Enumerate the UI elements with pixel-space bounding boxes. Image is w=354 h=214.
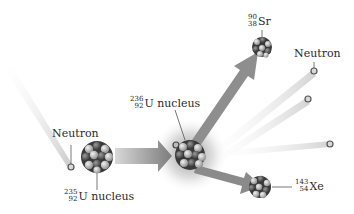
xe143-atomic: 54 bbox=[295, 186, 308, 193]
u235-suffix: nucleus bbox=[91, 190, 134, 203]
outgoing-neutron-label: Neutron bbox=[294, 48, 341, 59]
u235-nucleus bbox=[81, 141, 113, 174]
xe143-nucleus bbox=[249, 176, 271, 198]
incoming-neutron bbox=[68, 164, 74, 170]
fission-diagram: Neutron 23592U nucleus 23692U nucleus 90… bbox=[0, 0, 354, 214]
u235-label: 23592U nucleus bbox=[64, 189, 134, 203]
u235-atomic: 92 bbox=[64, 196, 77, 203]
xe143-label: 14354Xe bbox=[295, 179, 324, 193]
incoming-beam bbox=[0, 56, 72, 168]
arrow-to-sr bbox=[192, 52, 258, 146]
sr90-atomic: 38 bbox=[248, 21, 257, 28]
neutron-3 bbox=[327, 141, 333, 147]
neutron-1 bbox=[311, 68, 317, 74]
u236-suffix: nucleus bbox=[157, 97, 200, 110]
u235-symbol: U bbox=[78, 190, 87, 203]
sr90-label: 9038Sr bbox=[248, 14, 271, 28]
u236-label: 23692U nucleus bbox=[130, 96, 200, 110]
sr90-symbol: Sr bbox=[258, 15, 271, 28]
neutron-2 bbox=[305, 96, 311, 102]
xe143-symbol: Xe bbox=[309, 180, 323, 193]
u236-symbol: U bbox=[144, 97, 153, 110]
incoming-neutron-label: Neutron bbox=[52, 128, 99, 139]
u236-atomic: 92 bbox=[130, 103, 143, 110]
